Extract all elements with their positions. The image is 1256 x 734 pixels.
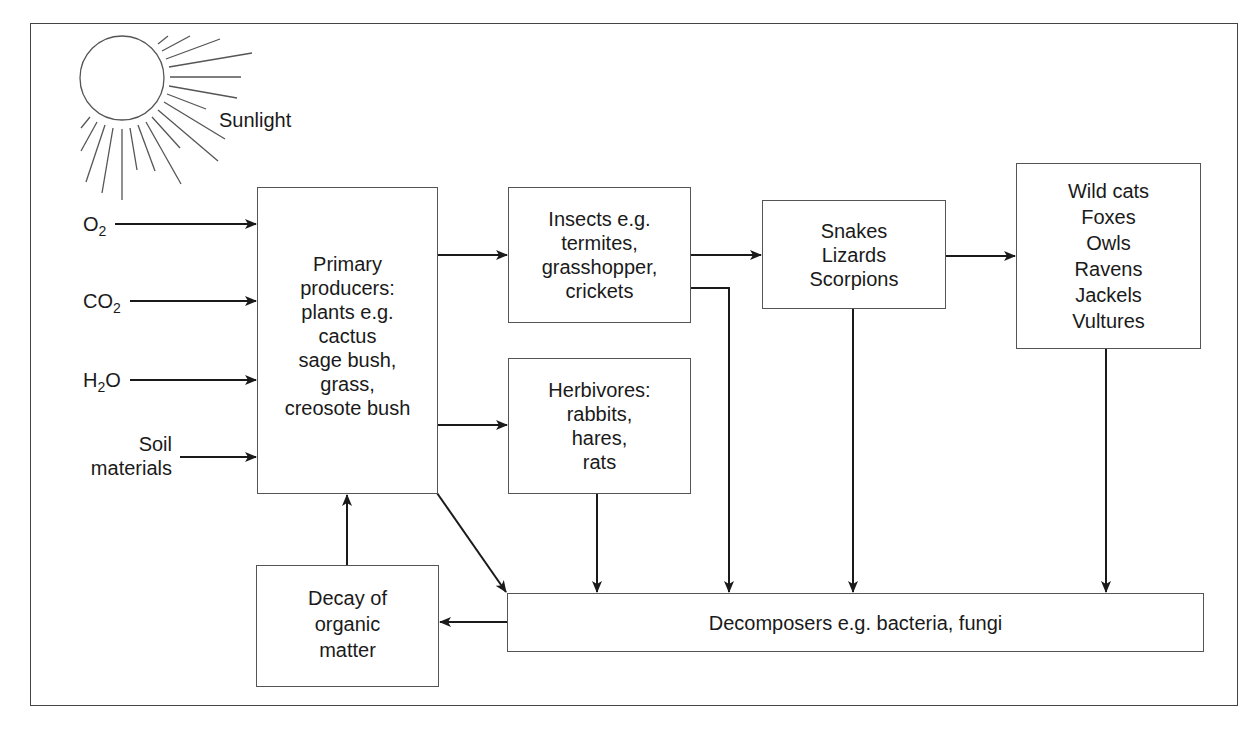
input-label-o2: O2 [83, 212, 106, 236]
node-decay-organic-matter: Decay of organic matter [256, 565, 439, 687]
node-insects: Insects e.g. termites, grasshopper, cric… [508, 187, 691, 323]
node-reptiles-arachnids: Snakes Lizards Scorpions [762, 200, 946, 309]
node-herbivores: Herbivores: rabbits, hares, rats [508, 358, 691, 494]
arrow-insects-decomposers [690, 288, 729, 592]
node-top-predators: Wild cats Foxes Owls Ravens Jackels Vult… [1016, 163, 1201, 349]
input-label-soil: Soil materials [80, 432, 172, 480]
input-label-h2o: H2O [83, 368, 121, 392]
sunlight-label: Sunlight [219, 108, 291, 132]
node-decomposers: Decomposers e.g. bacteria, fungi [507, 593, 1204, 652]
node-primary-producers: Primary producers: plants e.g. cactus sa… [257, 187, 438, 494]
arrow-producers-decomposers [437, 493, 506, 592]
input-label-co2: CO2 [83, 289, 121, 313]
